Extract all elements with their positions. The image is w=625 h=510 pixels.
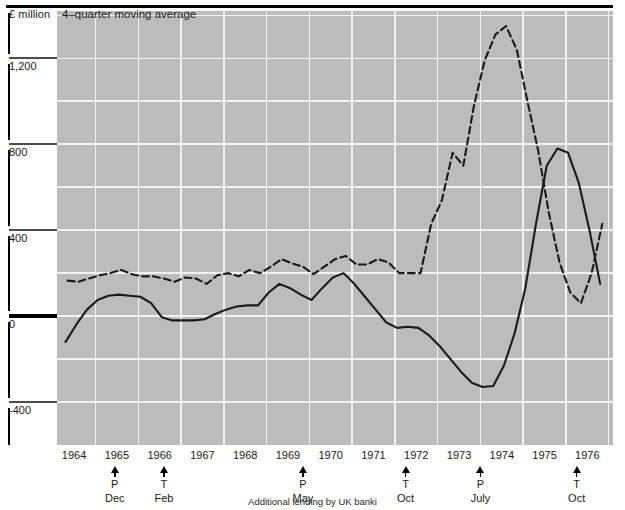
arrow-stem <box>405 473 407 477</box>
x-axis-tick-label: 1975 <box>532 449 556 461</box>
y-axis-spine-segment <box>8 322 10 398</box>
series-line-solid-line <box>66 149 601 387</box>
y-axis-tick <box>9 229 57 231</box>
figure-caption: Additional lending by UK banki <box>0 496 625 507</box>
y-axis-tick-label: 1,200 <box>9 60 37 72</box>
x-axis-tick-label: 1968 <box>233 449 257 461</box>
y-axis-spine-segment <box>8 150 10 226</box>
event-code-label: P <box>457 478 503 490</box>
series-line-dashed-line <box>68 26 603 303</box>
chart-figure: £ million 4–quarter moving average -4000… <box>0 0 625 510</box>
series-layer <box>57 11 613 445</box>
y-axis-tick <box>9 401 57 403</box>
arrow-stem <box>302 473 304 477</box>
up-arrow-icon <box>111 466 119 473</box>
up-arrow-icon <box>299 466 307 473</box>
y-axis-spine-segment <box>8 13 10 54</box>
arrow-stem <box>163 473 165 477</box>
y-axis-tick-label: 800 <box>9 146 27 158</box>
event-code-label: T <box>383 478 429 490</box>
event-code-label: T <box>141 478 187 490</box>
x-axis-tick-label: 1971 <box>361 449 385 461</box>
up-arrow-icon <box>573 466 581 473</box>
x-axis-tick-label: 1966 <box>147 449 171 461</box>
x-axis-tick-label: 1976 <box>575 449 599 461</box>
y-axis-tick-label: 400 <box>9 232 27 244</box>
y-axis-tick <box>9 57 57 59</box>
y-axis-spine-segment <box>8 236 10 311</box>
y-axis-tick <box>9 314 57 317</box>
y-axis-tick-label: -400 <box>9 404 31 416</box>
up-arrow-icon <box>402 466 410 473</box>
x-axis-tick-label: 1970 <box>318 449 342 461</box>
arrow-stem <box>114 473 116 477</box>
x-axis-tick-label: 1974 <box>490 449 514 461</box>
x-axis-tick-label: 1973 <box>447 449 471 461</box>
x-axis-tick-label: 1969 <box>276 449 300 461</box>
panel-title: 4–quarter moving average <box>62 8 196 20</box>
y-axis-spine-segment <box>8 408 10 445</box>
x-axis-tick-label: 1965 <box>105 449 129 461</box>
event-code-label: T <box>554 478 600 490</box>
up-arrow-icon <box>476 466 484 473</box>
y-axis-unit-label: £ million <box>9 8 50 20</box>
x-axis-tick-label: 1964 <box>62 449 86 461</box>
up-arrow-icon <box>160 466 168 473</box>
y-axis-spine-segment <box>8 64 10 140</box>
arrow-stem <box>480 473 482 477</box>
y-axis-tick <box>9 143 57 145</box>
event-code-label: P <box>92 478 138 490</box>
x-axis-tick-label: 1967 <box>190 449 214 461</box>
arrow-stem <box>576 473 578 477</box>
x-axis-tick-label: 1972 <box>404 449 428 461</box>
event-code-label: P <box>280 478 326 490</box>
